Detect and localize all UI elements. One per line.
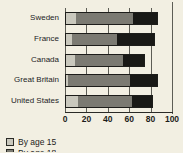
bar-segment [117, 34, 153, 45]
stacked-bar [65, 33, 155, 46]
legend-item: By age 18 [6, 147, 56, 152]
bar-segment [76, 13, 134, 24]
stacked-bar [65, 54, 145, 67]
bar-segment [68, 75, 130, 86]
legend-item: By age 15 [6, 136, 56, 147]
x-tick-label: 40 [103, 114, 112, 125]
stacked-bar [65, 74, 158, 87]
chart-legend-clipped: By age 18 [6, 147, 56, 152]
axis-line-right [172, 2, 173, 114]
bar-rows [65, 8, 172, 112]
bar-segment [66, 96, 78, 107]
bar-row [65, 33, 172, 46]
bar-row [65, 95, 172, 108]
x-tick-label: 80 [146, 114, 155, 125]
plot-area [65, 8, 172, 112]
bar-segment [72, 34, 117, 45]
x-tick-label: 100 [165, 114, 179, 125]
bar-segment [78, 96, 133, 107]
legend-swatch-icon [6, 138, 14, 146]
x-axis-tick-labels: 020406080100 [0, 114, 183, 126]
bar-segment [75, 55, 123, 66]
stacked-bar [65, 95, 153, 108]
bar-segment [123, 55, 144, 66]
legend-swatch-icon [6, 149, 14, 153]
category-label: Great Britain [14, 75, 59, 85]
legend-item-label: By age 15 [18, 137, 56, 147]
legend-item-label: By age 18 [18, 148, 56, 153]
bar-chart: SwedenFranceCanadaGreat BritainUnited St… [0, 0, 183, 152]
bar-row [65, 54, 172, 67]
x-tick-label: 60 [124, 114, 133, 125]
category-label: Canada [31, 55, 59, 65]
axis-baseline [65, 112, 173, 113]
category-axis-labels: SwedenFranceCanadaGreat BritainUnited St… [0, 8, 62, 112]
bar-segment [132, 96, 151, 107]
bar-row [65, 12, 172, 25]
bar-segment [66, 55, 75, 66]
stacked-bar [65, 12, 158, 25]
bar-row [65, 74, 172, 87]
chart-legend: By age 15 [6, 136, 56, 147]
x-tick-label: 0 [63, 114, 68, 125]
bar-segment [66, 13, 76, 24]
category-label: Sweden [30, 13, 59, 23]
bar-segment [133, 13, 157, 24]
x-tick-label: 20 [82, 114, 91, 125]
bar-segment [130, 75, 157, 86]
category-label: United States [11, 96, 59, 106]
category-label: France [34, 34, 59, 44]
